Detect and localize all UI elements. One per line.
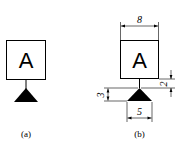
arrow-left-icon: [128, 117, 132, 120]
figure-a: A (a): [7, 41, 46, 140]
datum-symbol-diagram: A (a) A 8 2: [0, 0, 178, 148]
dimension-triangle-base: 5: [127, 102, 152, 122]
datum-letter: A: [19, 48, 34, 73]
datum-triangle-icon: [14, 88, 38, 102]
svg-text:2: 2: [158, 82, 169, 87]
arrow-down-icon: [107, 97, 110, 101]
arrow-right-icon: [154, 25, 158, 28]
arrow-down-icon: [170, 75, 173, 79]
datum-letter: A: [132, 48, 147, 73]
arrow-left-icon: [121, 25, 125, 28]
figure-caption: (b): [134, 129, 145, 139]
figure-caption: (a): [21, 129, 31, 139]
arrow-up-icon: [170, 88, 173, 92]
svg-text:8: 8: [137, 14, 142, 25]
dimension-box-width: 8: [121, 14, 159, 40]
figure-b: A 8 2 3: [95, 14, 175, 139]
arrow-right-icon: [148, 117, 152, 120]
svg-text:5: 5: [137, 106, 142, 117]
svg-text:3: 3: [95, 93, 106, 99]
datum-triangle-icon: [127, 88, 152, 101]
arrow-up-icon: [107, 89, 110, 93]
